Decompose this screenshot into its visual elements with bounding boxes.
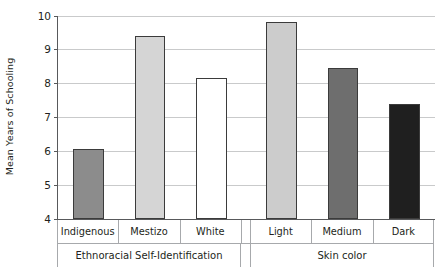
category-divider	[180, 220, 181, 243]
group-band-edge	[433, 244, 434, 267]
category-label-medium: Medium	[311, 220, 372, 243]
bar-mestizo	[135, 36, 166, 219]
group-break-divider	[241, 220, 242, 243]
category-band-edge	[433, 220, 434, 243]
bar-chart-figure: Mean Years of Schooling 10987654 Indigen…	[0, 0, 439, 274]
y-tick-label-8: 8	[44, 78, 51, 89]
y-axis-title-label: Mean Years of Schooling	[5, 57, 16, 175]
category-label-white: White	[180, 220, 241, 243]
bar-white	[196, 78, 227, 219]
y-tick-label-6: 6	[44, 146, 51, 157]
bar-dark	[389, 104, 420, 219]
category-label-dark: Dark	[373, 220, 434, 243]
category-axis-band: IndigenousMestizoWhiteLightMediumDark	[57, 219, 434, 244]
group-axis-band: Ethnoracial Self-IdentificationSkin colo…	[57, 244, 434, 272]
bars-layer	[58, 16, 435, 220]
group-band-edge	[57, 244, 58, 267]
group-label-skin-color: Skin color	[250, 244, 434, 266]
y-tick-label-9: 9	[44, 44, 51, 55]
category-band-edge	[57, 220, 58, 243]
category-divider	[311, 220, 312, 243]
y-tick-mark-8	[54, 83, 58, 84]
bar-light	[266, 22, 297, 219]
y-tick-mark-7	[54, 117, 58, 118]
y-tick-label-4: 4	[44, 214, 51, 225]
group-band-edge	[250, 244, 251, 267]
bar-indigenous	[73, 149, 104, 219]
y-tick-mark-9	[54, 49, 58, 50]
category-label-light: Light	[250, 220, 311, 243]
category-label-indigenous: Indigenous	[57, 220, 118, 243]
plot-area: 10987654	[57, 16, 435, 220]
group-band-edge	[240, 244, 241, 267]
y-axis-title: Mean Years of Schooling	[0, 0, 20, 232]
y-tick-mark-6	[54, 151, 58, 152]
y-tick-label-7: 7	[44, 112, 51, 123]
category-divider	[118, 220, 119, 243]
group-label-ethnoracial: Ethnoracial Self-Identification	[57, 244, 241, 266]
y-tick-mark-10	[54, 16, 58, 17]
y-tick-label-5: 5	[44, 180, 51, 191]
category-divider	[373, 220, 374, 243]
y-tick-mark-5	[54, 185, 58, 186]
y-tick-label-10: 10	[38, 10, 51, 21]
category-label-mestizo: Mestizo	[118, 220, 179, 243]
group-break-divider	[250, 220, 251, 243]
bar-medium	[328, 68, 359, 219]
